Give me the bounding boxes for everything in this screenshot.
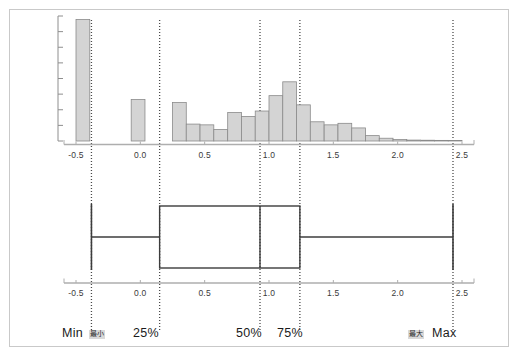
histogram-bar: [200, 125, 214, 141]
histogram-bar: [310, 122, 324, 141]
histogram-bar: [352, 128, 366, 141]
histogram-xtick-2-5: 2.5: [456, 150, 468, 160]
marker-label-min-jp: 最小: [89, 330, 105, 339]
figure-root: -0.50.00.51.01.52.02.5 -0.50.00.51.01.52…: [0, 0, 520, 358]
histogram-bar: [255, 111, 269, 141]
boxplot-xaxis-line: [64, 279, 474, 284]
boxplot-shape: [91, 204, 453, 270]
boxplot-xtick-1-0: 1.0: [263, 288, 275, 298]
histogram-bar: [283, 82, 297, 141]
statistics-plot: [0, 0, 520, 358]
histogram-bar: [379, 138, 393, 141]
histogram-xtick-0-5: 0.5: [198, 150, 210, 160]
histogram-bar: [241, 116, 255, 141]
boxplot-xtick-0-0: 0.0: [134, 288, 146, 298]
histogram-bar: [76, 20, 90, 141]
histogram-bar: [297, 105, 311, 141]
histogram-bar: [173, 103, 187, 141]
histogram-bar: [186, 124, 200, 141]
histogram-bar: [407, 140, 421, 141]
histogram-xtick-1-5: 1.5: [327, 150, 339, 160]
boxplot-xtick-0-5: 0.5: [198, 288, 210, 298]
boxplot-xtick-2-0: 2.0: [391, 288, 403, 298]
histogram-bar: [269, 96, 283, 141]
histogram-bar: [366, 136, 380, 141]
marker-label-q1: 25%: [133, 326, 159, 340]
boxplot-box: [160, 206, 300, 268]
histogram-yaxis: [58, 16, 63, 141]
boxplot-xtick--0-5: -0.5: [68, 288, 83, 298]
marker-label-median: 50%: [236, 326, 262, 340]
histogram-bars: [76, 20, 462, 141]
histogram-xtick-1-0: 1.0: [263, 150, 275, 160]
histogram-bar: [214, 129, 228, 141]
histogram-bar: [228, 113, 242, 141]
histogram-xtick-0-0: 0.0: [134, 150, 146, 160]
histogram-bar: [393, 139, 407, 141]
boxplot-xtick-2-5: 2.5: [456, 288, 468, 298]
histogram-bar: [338, 123, 352, 141]
boxplot-xtick-1-5: 1.5: [327, 288, 339, 298]
histogram-bar: [131, 99, 145, 141]
marker-label-min: Min: [62, 326, 83, 340]
histogram-bar: [421, 140, 435, 141]
marker-label-max-jp: 最大: [408, 330, 424, 339]
histogram-bar: [324, 125, 338, 141]
histogram-xtick-2-0: 2.0: [391, 150, 403, 160]
marker-label-max: Max: [432, 326, 457, 340]
marker-label-q3: 75%: [277, 326, 303, 340]
histogram-bar: [434, 140, 448, 141]
histogram-xtick--0-5: -0.5: [68, 150, 83, 160]
